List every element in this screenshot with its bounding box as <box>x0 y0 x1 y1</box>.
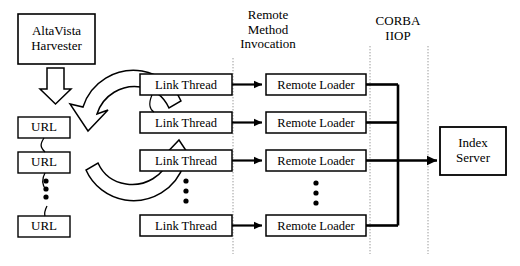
link-thread-connector <box>150 95 154 112</box>
remote-loader-box-3[interactable] <box>266 150 366 171</box>
corba-bus <box>366 85 398 226</box>
link-thread-box-2[interactable] <box>140 112 232 133</box>
remote-loader-box-2[interactable] <box>266 112 366 133</box>
diagram-canvas: Remote Method Invocation CORBA IIOP Alta… <box>0 0 520 266</box>
link-thread-box-1[interactable] <box>140 74 232 95</box>
url-chain-connectors <box>41 138 47 216</box>
remote-loader-box-1[interactable] <box>266 74 366 95</box>
url-box-3[interactable] <box>18 216 70 237</box>
harvester-box[interactable] <box>18 14 95 64</box>
url-box-2[interactable] <box>18 152 70 173</box>
url-ellipsis <box>43 178 48 199</box>
index-server-box[interactable] <box>440 127 506 175</box>
rmi-arrows <box>232 85 262 226</box>
remote-loader-ellipsis <box>313 180 318 205</box>
block-down-arrow-icon <box>40 68 71 104</box>
remote-loader-box-4[interactable] <box>266 215 366 236</box>
link-thread-ellipsis <box>183 178 188 203</box>
link-thread-box-3[interactable] <box>140 150 232 171</box>
url-box-1[interactable] <box>18 117 70 138</box>
link-thread-box-4[interactable] <box>140 215 232 236</box>
diagram-vector-layer <box>0 0 520 266</box>
